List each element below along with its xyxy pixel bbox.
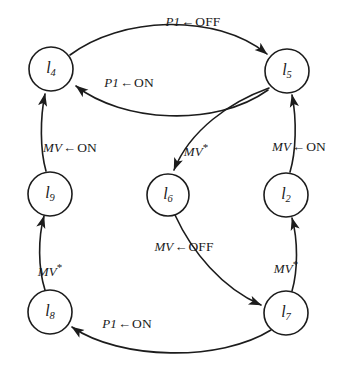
edge-label-l8-l9: MV* [38,262,63,278]
edge-l9-to-l4 [41,94,46,171]
node-label-l2: l2 [281,186,291,205]
edge-l7-to-l2 [292,218,297,291]
node-label-l4: l4 [46,60,56,79]
edge-l6-to-l7 [175,215,261,305]
edge-label-l7-l2: MV* [274,259,299,275]
edge-label-l9-l4: MV←ON [43,141,97,155]
edge-label-l5-l4: P1←ON [104,76,153,90]
edge-label-l4-l5: P1←OFF [166,15,221,29]
node-label-l9: l9 [45,185,55,204]
node-label-l7: l7 [281,304,291,323]
state-transition-diagram: l4 l5 l9 l6 l2 l8 l7 P1←OFF P1←ON MV←ON … [0,0,353,366]
edge-label-l7-l8: P1←ON [102,317,151,331]
node-label-l5: l5 [282,62,292,81]
node-label-l6: l6 [163,186,173,205]
edge-l2-to-l5 [290,95,295,172]
node-label-l8: l8 [45,303,55,322]
edge-l8-to-l9 [40,216,45,290]
edge-label-l6-l7: MV←OFF [154,240,213,254]
edge-label-l5-l6: MV* [184,142,209,158]
edge-label-l2-l5: MV←ON [272,140,326,154]
